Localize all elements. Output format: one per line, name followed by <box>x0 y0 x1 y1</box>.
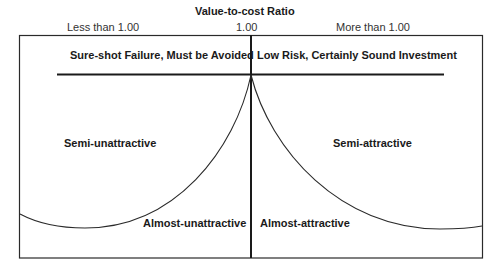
right-curve <box>251 75 482 229</box>
region-semi-attractive: Semi-attractive <box>333 137 412 149</box>
region-almost-attractive: Almost-attractive <box>260 217 350 229</box>
left-curve <box>20 75 251 228</box>
region-almost-unattractive: Almost-unattractive <box>143 217 246 229</box>
region-semi-unattractive: Semi-unattractive <box>64 137 156 149</box>
region-sure-shot-failure: Sure-shot Failure, Must be Avoided <box>70 49 254 61</box>
region-low-risk: Low Risk, Certainly Sound Investment <box>257 49 457 61</box>
